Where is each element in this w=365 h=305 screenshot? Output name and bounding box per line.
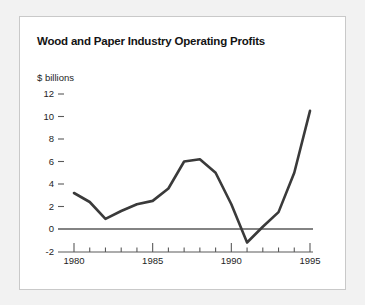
data-series [74,111,310,243]
y-tick-label: 12 [43,88,54,99]
y-tick-label: 8 [49,133,54,144]
x-axis: 1980198519901995 [58,243,321,266]
x-tick-label: 1985 [142,255,163,266]
y-tick-label: 6 [49,156,54,167]
x-tick-label: 1995 [299,255,320,266]
x-tick-label: 1990 [221,255,242,266]
y-tick-label: -2 [46,246,54,257]
y-tick-label: 2 [49,201,54,212]
y-tick-label: 4 [49,178,54,189]
chart-figure: Wood and Paper Industry Operating Profit… [0,0,365,305]
line-chart-plot: 121086420-2 1980198519901995 [0,0,365,305]
x-tick-label: 1980 [63,255,84,266]
series-line [74,111,310,243]
y-axis-ticks: 121086420-2 [43,88,64,257]
y-tick-label: 10 [43,111,54,122]
y-tick-label: 0 [49,223,54,234]
